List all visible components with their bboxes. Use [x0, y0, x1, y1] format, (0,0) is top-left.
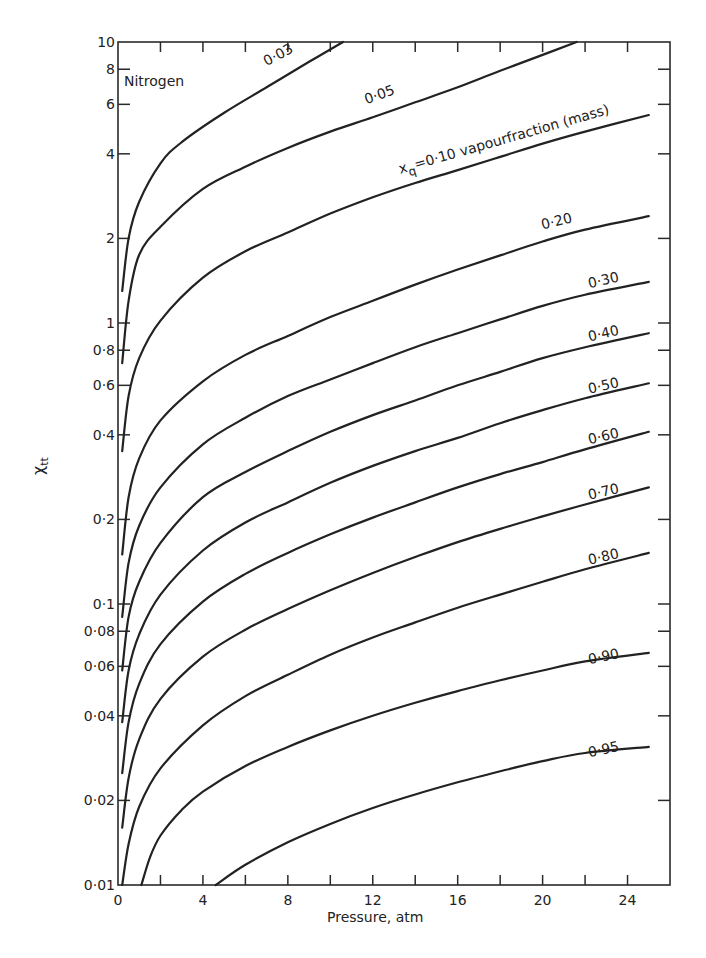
gas-annotation: Nitrogen	[124, 73, 184, 89]
curve-005	[122, 42, 576, 363]
x-axis-title: Pressure, atm	[327, 909, 423, 925]
curve-050	[122, 383, 649, 722]
y-tick-label: 0·02	[84, 792, 115, 808]
curve-020	[122, 216, 649, 554]
curve-090	[141, 653, 648, 885]
y-tick-label: 0·8	[93, 342, 115, 358]
y-tick-label: 6	[106, 96, 115, 112]
curve-label: 0·60	[586, 425, 620, 448]
curve-label: 0·05	[362, 81, 397, 107]
x-tick-label: 12	[364, 892, 382, 908]
x-tick-label: 20	[534, 892, 552, 908]
y-axis-title: χtt	[29, 456, 51, 475]
y-tick-label: 8	[106, 61, 115, 77]
curve-label: 0·70	[586, 480, 620, 503]
curve-label: 0·80	[586, 545, 620, 568]
curve-095	[216, 747, 649, 885]
y-tick-label: 0·01	[84, 877, 115, 893]
y-tick-label: 0·08	[84, 623, 115, 639]
plot-axes: 0481216202410864210·80·60·40·20·10·080·0…	[84, 34, 670, 908]
y-tick-label: 0·04	[84, 708, 115, 724]
y-tick-label: 0·06	[84, 658, 115, 674]
curve-070	[122, 487, 649, 827]
y-tick-label: 0·6	[93, 377, 115, 393]
curve-label: 0·95	[587, 738, 621, 760]
plot-frame	[118, 42, 670, 885]
curve-010	[122, 115, 649, 451]
curve-060	[122, 432, 649, 773]
curve-label: 0·03	[261, 40, 296, 69]
curve-labels: 0·030·05xq=0·10 vapourfraction (mass)0·2…	[261, 40, 621, 760]
x-tick-label: 4	[198, 892, 207, 908]
curve-label: 0·90	[587, 645, 621, 667]
y-tick-label: 0·2	[93, 511, 115, 527]
y-tick-label: 10	[97, 34, 115, 50]
y-tick-label: 1	[106, 315, 115, 331]
curve-series	[122, 42, 649, 885]
y-tick-label: 0·4	[93, 427, 115, 443]
x-tick-label: 8	[283, 892, 292, 908]
curve-label: 0·50	[586, 374, 620, 397]
y-tick-label: 4	[106, 146, 115, 162]
chart-figure: 0481216202410864210·80·60·40·20·10·080·0…	[0, 0, 706, 958]
x-tick-label: 0	[114, 892, 123, 908]
x-tick-label: 24	[619, 892, 637, 908]
curve-030	[122, 282, 649, 617]
curve-label: xq=0·10 vapourfraction (mass)	[397, 101, 613, 181]
y-tick-label: 2	[106, 230, 115, 246]
x-tick-label: 16	[449, 892, 467, 908]
curve-label: 0·20	[539, 209, 573, 232]
y-tick-label: 0·1	[93, 596, 115, 612]
